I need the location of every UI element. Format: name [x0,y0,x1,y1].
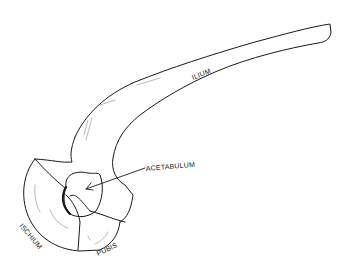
shading-ilium-1 [100,100,115,105]
label-ilium: ILIUM [191,67,212,81]
hip-bone-diagram: ILIUM ACETABULUM ISCHIUM PUBIS [0,0,350,272]
ischium-outline [24,159,120,251]
ilium-outline [75,24,331,222]
label-acetabulum: ACETABULUM [145,161,195,172]
shading-ilium-2 [137,78,160,85]
shading-pubis-2 [88,236,90,240]
acetabulum-pointer-line [86,168,145,189]
shading-ilium-4 [86,118,92,140]
label-ischium: ISCHIUM [18,222,43,250]
shading-ischium-1 [35,185,40,212]
triradiate-line-1 [66,195,80,250]
diagram-drawing: ILIUM ACETABULUM ISCHIUM PUBIS [0,0,350,272]
shading-ischium-2 [50,210,68,228]
acetabulum-outline [64,172,102,216]
triradiate-line-2 [90,211,125,222]
shading-pubis-1 [95,232,108,244]
label-pubis: PUBIS [95,241,118,257]
ilium-neck [35,137,75,162]
ischium-upper-edge [35,159,65,188]
shading-ilium-3 [84,120,88,135]
